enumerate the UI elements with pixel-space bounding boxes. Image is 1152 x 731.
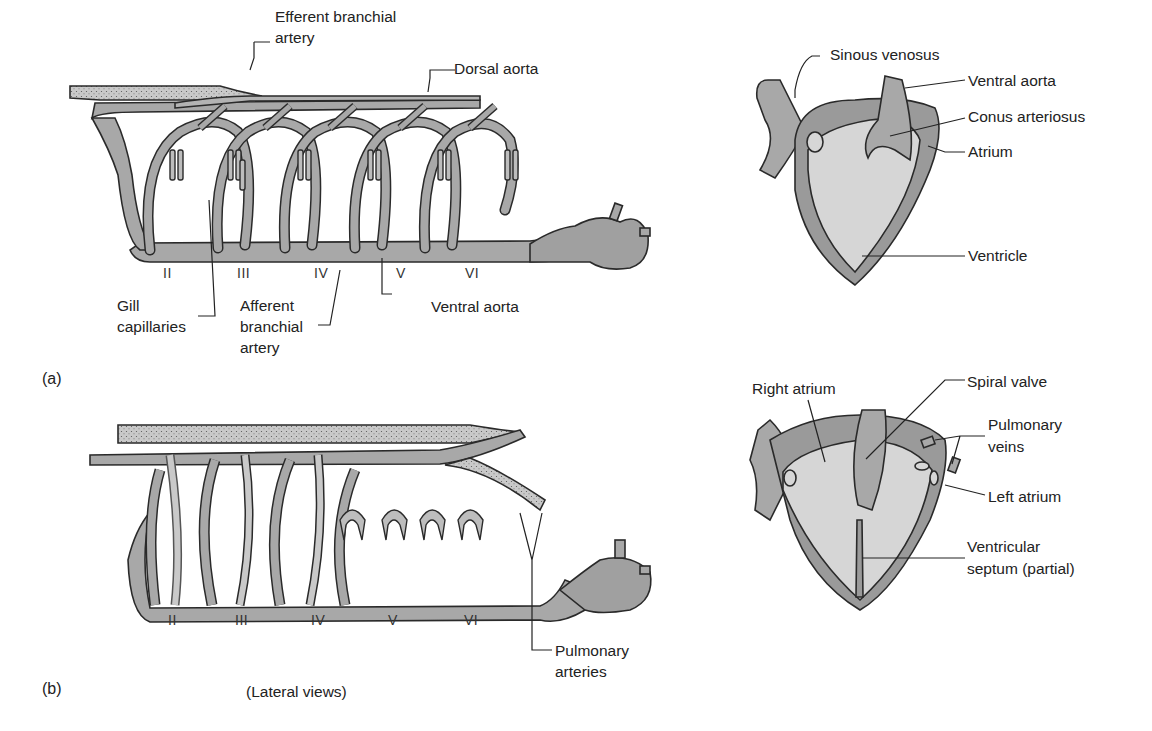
label-ventral-aorta-a: Ventral aorta — [431, 298, 519, 316]
arch-numeral-b-6: VI — [464, 612, 478, 628]
label-afferent-2: branchial — [240, 318, 303, 336]
arch-numeral-b-2: II — [168, 612, 177, 628]
label-spiral-valve: Spiral valve — [967, 373, 1047, 391]
label-right-atrium: Right atrium — [752, 380, 836, 398]
panel-b-id: (b) — [42, 680, 62, 698]
label-pulmonary-veins-1: Pulmonary — [988, 416, 1062, 434]
fish-aortic-arches — [70, 86, 650, 269]
label-dorsal-aorta: Dorsal aorta — [454, 60, 538, 78]
lungfish-aortic-arches — [90, 425, 651, 622]
label-pulmonary-veins-2: veins — [988, 438, 1024, 456]
label-gill-2: capillaries — [117, 318, 186, 336]
arch-numeral-a-2: II — [163, 265, 172, 281]
label-ventral-aorta-heart: Ventral aorta — [968, 72, 1056, 90]
arch-numeral-b-3: III — [235, 612, 248, 628]
arch-numeral-b-5: V — [388, 612, 398, 628]
label-ventricular-septum-2: septum (partial) — [967, 560, 1075, 578]
label-pulmonary-arteries-1: Pulmonary — [555, 642, 629, 660]
arch-numeral-a-4: IV — [314, 265, 328, 281]
label-sinous-venosus: Sinous venosus — [830, 46, 939, 64]
label-afferent-3: artery — [240, 339, 280, 357]
label-efferent-branchial-artery-2: artery — [275, 29, 315, 47]
label-pulmonary-arteries-2: arteries — [555, 663, 607, 681]
panel-a-id: (a) — [42, 370, 62, 388]
label-left-atrium: Left atrium — [988, 488, 1061, 506]
lungfish-heart — [750, 410, 960, 610]
label-atrium: Atrium — [968, 143, 1013, 161]
caption-lateral-views: (Lateral views) — [246, 683, 347, 701]
arch-numeral-a-3: III — [237, 265, 250, 281]
fish-heart — [757, 76, 939, 285]
arch-numeral-b-4: IV — [311, 612, 325, 628]
arch-numeral-a-5: V — [396, 265, 406, 281]
label-efferent-branchial-artery-1: Efferent branchial — [275, 8, 396, 26]
label-ventricular-septum-1: Ventricular — [967, 538, 1040, 556]
label-ventricle: Ventricle — [968, 247, 1027, 265]
label-gill-1: Gill — [117, 297, 139, 315]
label-conus-arteriosus: Conus arteriosus — [968, 108, 1085, 126]
label-afferent-1: Afferent — [240, 297, 294, 315]
arch-numeral-a-6: VI — [465, 265, 479, 281]
